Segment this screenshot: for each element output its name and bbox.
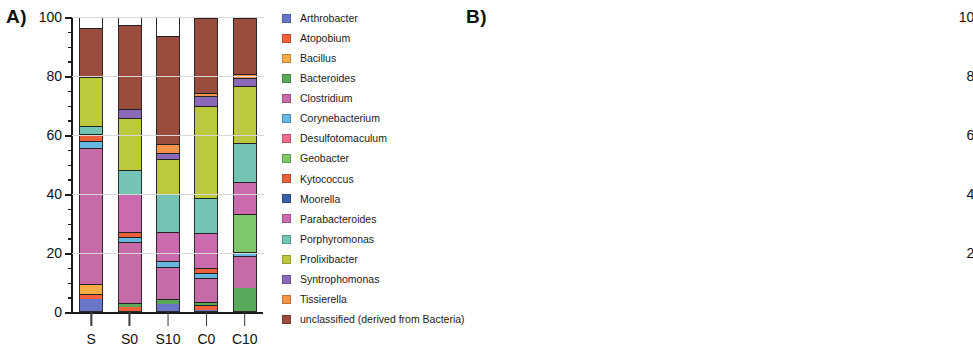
y-axis-tick-label: 60 bbox=[966, 127, 973, 143]
panel-a-label: A) bbox=[6, 6, 27, 28]
legend-item: Parabacteroides bbox=[282, 209, 465, 229]
x-axis-label: C10 bbox=[232, 331, 258, 347]
panel-a-legend: ArthrobacterAtopobiumBacillusBacteroides… bbox=[282, 8, 465, 330]
legend-label: Atopobium bbox=[300, 33, 350, 44]
bar-segment bbox=[80, 126, 102, 135]
bar-segment bbox=[234, 288, 256, 311]
stacked-bar bbox=[118, 17, 142, 312]
stacked-bar bbox=[194, 17, 218, 312]
y-axis-tick-label: 80 bbox=[46, 68, 62, 84]
x-axis-tick-s: S bbox=[87, 312, 96, 357]
x-axis-label: S10 bbox=[156, 331, 181, 347]
bar-segment bbox=[195, 278, 217, 303]
bar-segment bbox=[234, 214, 256, 253]
legend-color-swatch bbox=[282, 295, 291, 304]
panel-a-x-labels: SS0S10C0C10 bbox=[72, 312, 264, 357]
legend-label: unclassified (derived from Bacteria) bbox=[300, 314, 465, 325]
legend-color-swatch bbox=[282, 174, 291, 183]
y-axis-major-tick bbox=[65, 312, 72, 314]
bar-segment bbox=[157, 36, 179, 144]
panel-a-plot-area: 020406080100 bbox=[72, 17, 264, 312]
legend-item: Arthrobacter bbox=[282, 8, 465, 28]
bar-segment bbox=[157, 159, 179, 194]
legend-color-swatch bbox=[282, 214, 291, 223]
y-axis-major-tick bbox=[65, 17, 72, 19]
y-axis-tick-label: 20 bbox=[46, 245, 62, 261]
legend-color-swatch bbox=[282, 255, 291, 264]
legend-label: Moorella bbox=[300, 194, 340, 205]
legend-label: Corynebacterium bbox=[300, 113, 380, 124]
legend-label: Syntrophomonas bbox=[300, 274, 379, 285]
bar-segment bbox=[119, 109, 141, 118]
bar-segment bbox=[234, 143, 256, 182]
y-axis-tick-label: 0 bbox=[54, 304, 62, 320]
legend-label: Parabacteroides bbox=[300, 214, 376, 225]
y-axis-tick-label: 40 bbox=[966, 186, 973, 202]
bar-segment bbox=[195, 310, 217, 311]
legend-label: Geobacter bbox=[300, 153, 349, 164]
y-axis-tick-label: 100 bbox=[959, 9, 973, 25]
bar-segment bbox=[234, 182, 256, 214]
y-axis-major-tick bbox=[65, 194, 72, 196]
y-gridline bbox=[72, 76, 264, 77]
y-gridline bbox=[72, 135, 264, 136]
legend-color-swatch bbox=[282, 34, 291, 43]
bar-segment bbox=[119, 242, 141, 302]
x-tick-mark bbox=[244, 312, 245, 326]
x-axis-tick-c0: C0 bbox=[197, 312, 215, 357]
bar-segment bbox=[80, 148, 102, 284]
legend-item: Moorella bbox=[282, 189, 465, 209]
stacked-bar bbox=[233, 17, 257, 312]
panel-b-label: B) bbox=[466, 6, 487, 28]
y-axis-major-tick bbox=[65, 135, 72, 137]
y-axis-tick-label: 20 bbox=[966, 245, 973, 261]
legend-label: Bacteroides bbox=[300, 73, 355, 84]
legend-item: Bacteroides bbox=[282, 68, 465, 88]
panel-b: B) 020406080100 SS0S10C0C10 HaloferaxHal… bbox=[460, 0, 973, 357]
y-axis-tick-label: 40 bbox=[46, 186, 62, 202]
legend-color-swatch bbox=[282, 14, 291, 23]
bar-segment bbox=[234, 78, 256, 86]
bar-segment bbox=[157, 194, 179, 232]
bar-group-c0 bbox=[194, 17, 218, 312]
y-axis-major-tick bbox=[65, 76, 72, 78]
bar-segment bbox=[80, 284, 102, 294]
legend-label: Porphyromonas bbox=[300, 234, 374, 245]
y-axis-tick-label: 80 bbox=[966, 68, 973, 84]
legend-color-swatch bbox=[282, 275, 291, 284]
x-tick-mark bbox=[91, 312, 92, 326]
x-tick-mark bbox=[167, 312, 168, 326]
legend-color-swatch bbox=[282, 154, 291, 163]
y-axis-major-tick bbox=[65, 253, 72, 255]
stacked-bar bbox=[156, 17, 180, 312]
legend-color-swatch bbox=[282, 315, 291, 324]
bar-group-s bbox=[79, 17, 103, 312]
x-axis-label: C0 bbox=[197, 331, 215, 347]
y-gridline bbox=[72, 17, 264, 18]
y-gridline bbox=[72, 253, 264, 254]
legend-item: Syntrophomonas bbox=[282, 269, 465, 289]
legend-color-swatch bbox=[282, 54, 291, 63]
bar-segment bbox=[119, 307, 141, 311]
bar-group-c10 bbox=[233, 17, 257, 312]
legend-item: Bacillus bbox=[282, 48, 465, 68]
bar-group-s10 bbox=[156, 17, 180, 312]
stacked-bar bbox=[79, 17, 103, 312]
legend-item: Prolixibacter bbox=[282, 249, 465, 269]
legend-item: Desulfotomaculum bbox=[282, 129, 465, 149]
legend-color-swatch bbox=[282, 74, 291, 83]
bar-segment bbox=[234, 256, 256, 288]
bar-segment bbox=[80, 77, 102, 126]
stacked-bar-figure: A) 020406080100 SS0S10C0C10 Arthrobacter… bbox=[0, 0, 973, 357]
x-tick-mark bbox=[129, 312, 130, 326]
y-axis-tick-label: 60 bbox=[46, 127, 62, 143]
legend-item: Tissierella bbox=[282, 289, 465, 309]
legend-label: Prolixibacter bbox=[300, 254, 358, 265]
bar-segment bbox=[119, 170, 141, 193]
legend-label: Arthrobacter bbox=[300, 13, 358, 24]
bar-segment bbox=[195, 96, 217, 106]
panel-a-bars bbox=[72, 17, 264, 312]
y-axis-tick-label: 100 bbox=[39, 9, 62, 25]
bar-segment bbox=[119, 194, 141, 232]
bar-segment bbox=[157, 232, 179, 261]
